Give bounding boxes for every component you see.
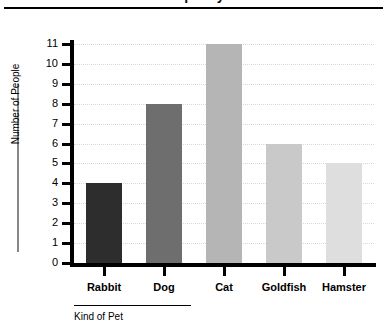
y-axis-tick-label: 0 (36, 257, 58, 268)
y-axis-tick (62, 242, 71, 245)
x-axis-title-rule (74, 305, 191, 306)
y-axis-title-wrap: Number of People (8, 44, 24, 164)
y-axis-tick-label: 5 (36, 157, 58, 168)
y-axis-tick-label: 7 (36, 118, 58, 129)
y-axis-tick (62, 43, 71, 46)
bar-dog (146, 104, 182, 263)
x-axis-tick (163, 267, 166, 276)
y-axis-tick (62, 103, 71, 106)
y-axis-tick-label: 2 (36, 217, 58, 228)
y-axis-tick-label: 9 (36, 78, 58, 89)
y-axis-tick (62, 83, 71, 86)
y-axis-tick (62, 162, 71, 165)
y-axis-tick-label: 11 (36, 38, 58, 49)
y-axis-tick-label: 4 (36, 177, 58, 188)
x-axis-title: Kind of Pet (74, 310, 123, 323)
bar-cat (206, 44, 242, 263)
x-axis-tick (283, 267, 286, 276)
y-axis-tick (62, 123, 71, 126)
bar-hamster (326, 163, 362, 263)
y-axis-tick (62, 63, 71, 66)
y-axis-tick-label: 6 (36, 138, 58, 149)
title-divider (4, 7, 383, 9)
y-axis-tick-label: 3 (36, 197, 58, 208)
x-axis-tick-label-dog: Dog (134, 281, 194, 293)
y-axis-tick (62, 222, 71, 225)
chart-title: Number of People by Kind of Pet (0, 0, 387, 3)
y-axis-tick-label: 8 (36, 98, 58, 109)
x-axis-tick (223, 267, 226, 276)
x-axis-tick-label-rabbit: Rabbit (74, 281, 134, 293)
x-axis-tick (103, 267, 106, 276)
x-axis-tick (343, 267, 346, 276)
y-axis-tick-label: 1 (36, 237, 58, 248)
bar-chart: Number of People by Kind of Pet 01234567… (0, 0, 387, 335)
y-axis-tick (62, 262, 71, 265)
x-axis-tick-label-goldfish: Goldfish (254, 281, 314, 293)
y-axis-title: Number of People (8, 44, 24, 164)
y-axis-line (70, 40, 74, 267)
y-axis-tick-label: 10 (36, 58, 58, 69)
bar-goldfish (266, 144, 302, 263)
y-axis-tick (62, 202, 71, 205)
y-axis-tick (62, 182, 71, 185)
x-axis-tick-label-hamster: Hamster (314, 281, 374, 293)
y-axis-tick (62, 143, 71, 146)
bar-rabbit (86, 183, 122, 263)
x-axis-tick-label-cat: Cat (194, 281, 254, 293)
plot-area (74, 44, 374, 263)
